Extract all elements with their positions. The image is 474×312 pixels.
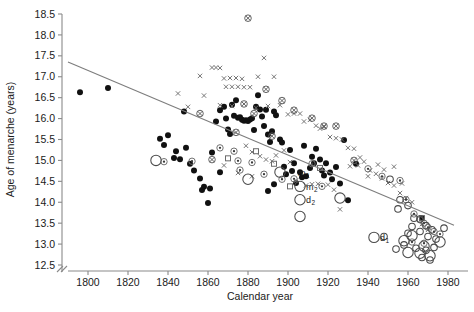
marker-filled-circle xyxy=(333,164,339,170)
x-tick-label: 1920 xyxy=(316,276,340,288)
data-points-group xyxy=(77,15,447,263)
marker-open-circle xyxy=(425,233,432,240)
marker-dotted-circle-center xyxy=(381,175,383,177)
marker-filled-circle xyxy=(265,188,271,194)
marker-dotted-circle-center xyxy=(233,150,235,152)
marker-filled-circle xyxy=(259,113,265,119)
marker-filled-circle xyxy=(229,102,235,108)
marker-dotted-circle-center xyxy=(219,147,221,149)
x-tick-label: 1900 xyxy=(276,276,300,288)
x-tick-label: 1960 xyxy=(396,276,420,288)
annotation-subscript: 2 xyxy=(314,186,318,193)
marker-filled-circle xyxy=(271,181,277,187)
marker-filled-circle xyxy=(317,157,323,163)
marker-open-circle xyxy=(151,155,161,165)
marker-open-circle xyxy=(335,193,345,203)
marker-filled-circle xyxy=(165,132,171,138)
marker-open-circle xyxy=(431,244,438,251)
marker-filled-circle xyxy=(177,156,183,162)
marker-filled-circle xyxy=(233,97,239,103)
x-tick-label: 1820 xyxy=(116,276,140,288)
marker-open-circle xyxy=(369,232,379,242)
y-tick-label: 16.0 xyxy=(35,112,56,124)
x-tick-label: 1860 xyxy=(196,276,220,288)
marker-open-square xyxy=(288,184,293,189)
y-tick-label: 18.5 xyxy=(35,8,56,20)
marker-dotted-circle-center xyxy=(439,233,441,235)
marker-filled-circle xyxy=(199,187,205,193)
y-tick-label: 16.5 xyxy=(35,91,56,103)
marker-dotted-circle-center xyxy=(163,161,165,163)
y-tick-label: 13.0 xyxy=(35,238,56,250)
y-tick-label: 14.0 xyxy=(35,196,56,208)
marker-open-circle xyxy=(419,254,426,261)
chart-figure: 12.513.013.514.014.515.015.516.016.517.0… xyxy=(0,0,474,312)
annotation-subscript: 1 xyxy=(385,237,389,244)
marker-filled-circle xyxy=(173,148,179,154)
y-tick-label: 13.5 xyxy=(35,217,56,229)
marker-filled-circle xyxy=(197,175,203,181)
marker-open-circle xyxy=(295,181,305,191)
marker-filled-circle xyxy=(255,92,261,98)
marker-filled-circle xyxy=(287,147,293,153)
marker-filled-circle xyxy=(77,89,83,95)
y-tick-label: 18.0 xyxy=(35,29,56,41)
series-crossed-circle xyxy=(197,15,358,164)
marker-open-circle xyxy=(275,167,285,177)
marker-filled-circle xyxy=(329,176,335,182)
series-dotted-circle xyxy=(161,145,443,247)
x-tick-label: 1980 xyxy=(436,276,460,288)
marker-filled-circle xyxy=(183,145,189,151)
scatter-plot: 12.513.013.514.014.515.015.516.016.517.0… xyxy=(0,0,474,312)
marker-open-square xyxy=(254,149,259,154)
x-axis-title: Calendar year xyxy=(227,290,293,302)
series-open-circle-small xyxy=(381,176,448,263)
marker-filled-circle xyxy=(157,136,163,142)
marker-dotted-circle-center xyxy=(251,161,253,163)
marker-dotted-circle-center xyxy=(191,160,193,162)
marker-filled-circle xyxy=(205,200,211,206)
marker-open-circle xyxy=(417,228,424,235)
x-tick-label: 1880 xyxy=(236,276,260,288)
trend-line xyxy=(68,62,454,225)
y-tick-label: 15.0 xyxy=(35,154,56,166)
marker-open-circle xyxy=(395,206,402,213)
x-tick-label: 1940 xyxy=(356,276,380,288)
marker-open-circle xyxy=(243,174,253,184)
annotation-label-d1: d1 xyxy=(380,233,389,244)
annotation-subscript: 2 xyxy=(311,199,315,206)
y-tick-label: 17.0 xyxy=(35,70,56,82)
marker-filled-circle xyxy=(321,172,327,178)
marker-open-circle xyxy=(407,231,417,241)
marker-open-circle xyxy=(295,195,305,205)
marker-filled-circle xyxy=(313,146,319,152)
x-tick-label: 1840 xyxy=(156,276,180,288)
marker-dotted-circle-center xyxy=(321,185,323,187)
marker-filled-circle xyxy=(209,149,215,155)
marker-filled-circle xyxy=(273,112,279,118)
marker-dotted-circle-center xyxy=(263,173,265,175)
annotation-label-d2: d2 xyxy=(306,195,315,206)
marker-dotted-circle-center xyxy=(239,169,241,171)
marker-dotted-circle-center xyxy=(423,242,425,244)
y-tick-label: 17.5 xyxy=(35,49,56,61)
marker-filled-circle xyxy=(207,185,213,191)
marker-filled-circle xyxy=(105,85,111,91)
y-axis-title: Age of menarche (years) xyxy=(4,82,16,198)
marker-open-circle xyxy=(393,246,400,253)
marker-open-circle xyxy=(409,223,416,230)
marker-dotted-circle-center xyxy=(399,179,401,181)
marker-filled-circle xyxy=(345,197,351,203)
marker-filled-circle xyxy=(217,169,223,175)
marker-open-circle xyxy=(441,225,448,232)
marker-dotted-circle-center xyxy=(405,199,407,201)
marker-dotted-circle-center xyxy=(237,160,239,162)
marker-dotted-circle-center xyxy=(293,178,295,180)
marker-filled-circle xyxy=(289,168,295,174)
marker-filled-circle xyxy=(223,116,229,122)
marker-filled-circle xyxy=(161,142,167,148)
marker-filled-circle xyxy=(171,155,177,161)
marker-filled-circle xyxy=(323,160,329,166)
marker-filled-circle xyxy=(251,127,257,133)
marker-open-circle xyxy=(403,247,413,257)
